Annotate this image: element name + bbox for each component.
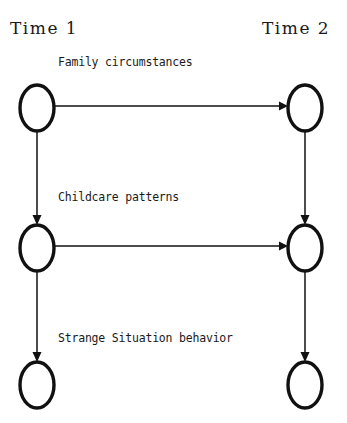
node-childcare-time2 bbox=[288, 225, 322, 271]
edge-childcare-t1-to-strange-t1 bbox=[33, 271, 42, 362]
row-label-family-circumstances: Family circumstances bbox=[58, 55, 192, 69]
edge-family-t1-to-childcare-t1 bbox=[33, 131, 42, 225]
node-childcare-time1 bbox=[20, 225, 54, 271]
node-family-time2 bbox=[288, 85, 322, 131]
edge-family-t1-to-family-t2 bbox=[55, 102, 288, 111]
diagram-canvas: Time 1 Time 2 Family circumstances Child… bbox=[0, 0, 347, 423]
edge-childcare-t1-to-childcare-t2 bbox=[55, 242, 288, 251]
edge-family-t2-to-childcare-t2 bbox=[301, 131, 310, 225]
node-family-time1 bbox=[20, 85, 54, 131]
row-label-childcare-patterns: Childcare patterns bbox=[58, 190, 179, 204]
path-diagram: Time 1 Time 2 Family circumstances Child… bbox=[0, 0, 347, 423]
edge-childcare-t2-to-strange-t2 bbox=[301, 271, 310, 362]
node-strange-situation-time1 bbox=[20, 362, 54, 408]
column-header-time2: Time 2 bbox=[262, 18, 330, 38]
column-header-time1: Time 1 bbox=[10, 18, 78, 38]
node-strange-situation-time2 bbox=[288, 362, 322, 408]
row-label-strange-situation-behavior: Strange Situation behavior bbox=[58, 331, 233, 345]
